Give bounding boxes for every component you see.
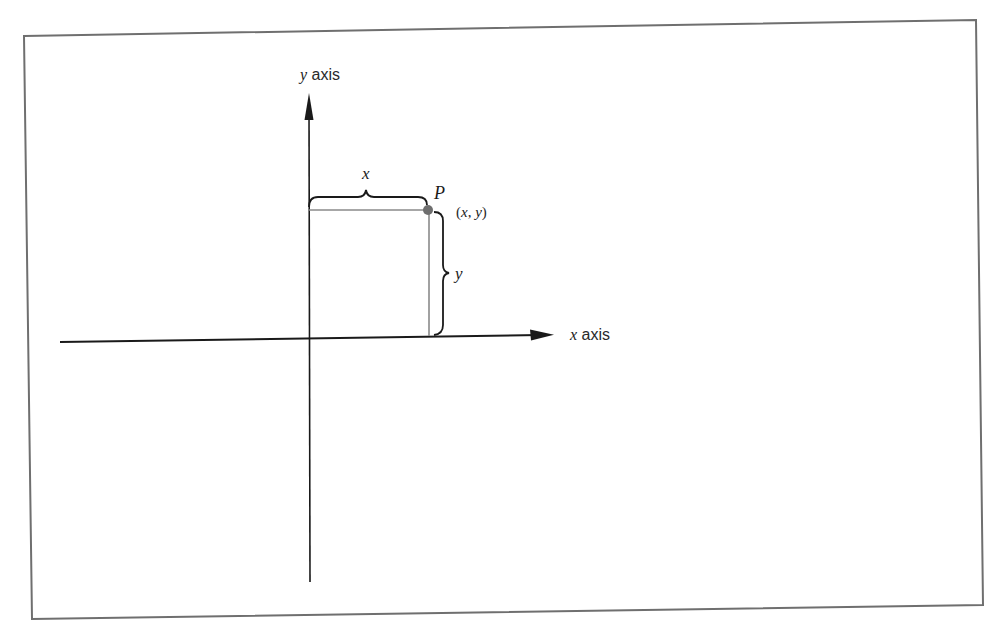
y-axis-arrowhead [305, 93, 314, 120]
coordinates-separator: , [468, 204, 476, 220]
vertical-distance-brace [434, 212, 449, 335]
point-p-marker [423, 205, 433, 215]
coordinates-close-paren: ) [482, 204, 487, 221]
y-axis-word: axis [307, 66, 340, 83]
x-axis-line [60, 335, 540, 342]
coordinates-y: y [473, 204, 482, 220]
x-axis-label: x axis [569, 326, 610, 343]
y-axis-label: y axis [298, 66, 340, 84]
coordinate-diagram: y axis x axis x y P (x, y) [0, 0, 1001, 635]
y-axis-line [309, 108, 310, 582]
horizontal-distance-label: x [361, 164, 370, 183]
x-axis-word: axis [577, 326, 610, 343]
point-p-label: P [433, 183, 445, 203]
point-p-coordinates: (x, y) [456, 204, 487, 221]
x-axis-variable: x [569, 326, 577, 343]
horizontal-distance-brace [309, 190, 427, 207]
figure-frame [24, 20, 983, 619]
vertical-distance-label: y [453, 264, 463, 283]
x-axis-arrowhead [530, 330, 554, 341]
